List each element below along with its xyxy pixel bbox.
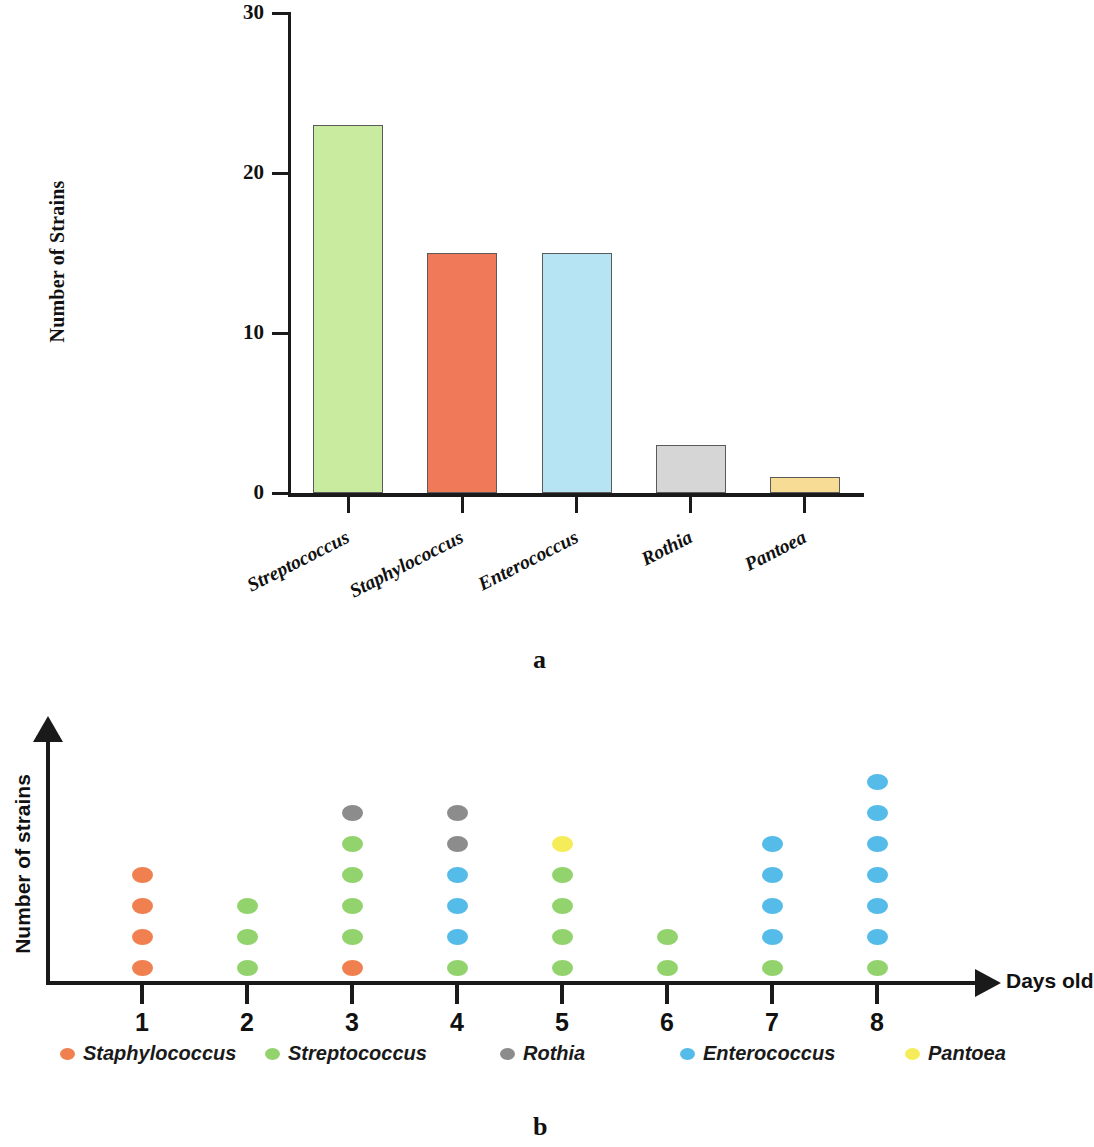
panel-b-dot <box>342 836 363 852</box>
legend-item: Staphylococcus <box>60 1042 236 1065</box>
panel-b-x-tick <box>455 985 459 1004</box>
panel-b-dot <box>657 929 678 945</box>
panel-b-x-tick-label: 8 <box>857 1008 897 1037</box>
panel-b-dot <box>867 867 888 883</box>
panel-a-bar <box>770 477 840 493</box>
panel-b-x-tick <box>350 985 354 1004</box>
panel-b-dot <box>762 960 783 976</box>
panel-b-y-axis <box>46 738 50 983</box>
panel-b-dot <box>552 960 573 976</box>
panel-b-dot <box>447 805 468 821</box>
panel-b-dot <box>342 898 363 914</box>
panel-b-x-tick-label: 5 <box>542 1008 582 1037</box>
panel-b-letter: b <box>533 1112 547 1142</box>
panel-b-dot <box>132 898 153 914</box>
panel-b-x-tick <box>875 985 879 1004</box>
panel-a-x-tick <box>689 497 692 513</box>
panel-b-dot <box>447 898 468 914</box>
panel-b-dot <box>132 867 153 883</box>
panel-b-dot <box>867 898 888 914</box>
panel-a-y-tick <box>272 12 288 15</box>
panel-a-x-tick <box>575 497 578 513</box>
panel-b-dot <box>867 805 888 821</box>
panel-a-x-tick <box>347 497 350 513</box>
legend-dot-icon <box>60 1048 75 1060</box>
panel-a-y-tick-label: 30 <box>228 2 264 23</box>
panel-b-y-axis-label: Number of strains <box>11 759 35 969</box>
legend-label: Streptococcus <box>288 1042 427 1065</box>
panel-a-bar <box>427 253 497 493</box>
panel-a-x-tick <box>803 497 806 513</box>
panel-b-dot <box>762 867 783 883</box>
panel-b-x-tick-label: 2 <box>227 1008 267 1037</box>
panel-b-legend: StaphylococcusStreptococcusRothiaEnteroc… <box>60 1042 960 1072</box>
legend-dot-icon <box>500 1048 515 1060</box>
legend-label: Staphylococcus <box>83 1042 236 1065</box>
panel-b-dot <box>867 960 888 976</box>
panel-b-x-tick-label: 4 <box>437 1008 477 1037</box>
panel-b-x-tick-label: 7 <box>752 1008 792 1037</box>
legend-item: Enterococcus <box>680 1042 835 1065</box>
panel-b-x-tick-label: 3 <box>332 1008 372 1037</box>
panel-b-dot <box>867 836 888 852</box>
panel-a-bar <box>313 125 383 493</box>
panel-b-dot <box>552 898 573 914</box>
panel-b-dot <box>447 929 468 945</box>
panel-b-x-tick-label: 1 <box>122 1008 162 1037</box>
panel-b-dot <box>237 898 258 914</box>
y-axis-arrow-icon <box>33 716 63 742</box>
panel-b-dot <box>132 960 153 976</box>
panel-b-x-tick <box>245 985 249 1004</box>
panel-a-letter: a <box>533 645 546 675</box>
legend-dot-icon <box>680 1048 695 1060</box>
panel-b-dot <box>447 867 468 883</box>
panel-b-dot <box>342 805 363 821</box>
panel-b-dot <box>132 929 153 945</box>
panel-a-bar-chart: Number of Strains 0102030 StreptococcusS… <box>0 0 1086 690</box>
panel-a-y-tick <box>272 332 288 335</box>
panel-b-x-tick <box>140 985 144 1004</box>
panel-b-x-tick <box>665 985 669 1004</box>
panel-b-dot <box>657 960 678 976</box>
panel-b-dot <box>552 836 573 852</box>
panel-b-dot <box>447 836 468 852</box>
panel-a-bar <box>542 253 612 493</box>
panel-b-dot <box>342 960 363 976</box>
panel-a-y-axis-label: Number of Strains <box>46 147 69 377</box>
panel-b-dot <box>552 929 573 945</box>
panel-a-y-tick <box>272 492 288 495</box>
panel-a-y-axis <box>288 12 291 496</box>
panel-b-dot <box>762 898 783 914</box>
panel-b-dot <box>867 929 888 945</box>
panel-a-y-tick-label: 20 <box>228 162 264 183</box>
panel-b-dot <box>762 929 783 945</box>
panel-b-x-axis-label: Days old <box>1006 969 1094 993</box>
x-axis-arrow-icon <box>975 969 1001 997</box>
panel-a-bar <box>656 445 726 493</box>
legend-item: Rothia <box>500 1042 585 1065</box>
panel-b-x-tick <box>560 985 564 1004</box>
legend-dot-icon <box>265 1048 280 1060</box>
panel-a-y-tick-label: 0 <box>228 482 264 503</box>
panel-b-dot <box>447 960 468 976</box>
legend-label: Rothia <box>523 1042 585 1065</box>
panel-b-dot <box>762 836 783 852</box>
legend-dot-icon <box>905 1048 920 1060</box>
panel-b-dot-plot: Number of strains Days old 12345678 Stap… <box>0 690 1086 1147</box>
legend-item: Streptococcus <box>265 1042 427 1065</box>
panel-b-dot <box>552 867 573 883</box>
panel-a-y-tick <box>272 172 288 175</box>
legend-label: Enterococcus <box>703 1042 835 1065</box>
panel-b-x-tick-label: 6 <box>647 1008 687 1037</box>
legend-item: Pantoea <box>905 1042 1006 1065</box>
legend-label: Pantoea <box>928 1042 1006 1065</box>
panel-a-y-tick-label: 10 <box>228 322 264 343</box>
panel-b-dot <box>237 960 258 976</box>
panel-b-dot <box>237 929 258 945</box>
panel-b-dot <box>342 929 363 945</box>
panel-b-dot <box>342 867 363 883</box>
panel-b-x-tick <box>770 985 774 1004</box>
panel-b-dot <box>867 774 888 790</box>
panel-b-x-axis <box>46 981 984 985</box>
